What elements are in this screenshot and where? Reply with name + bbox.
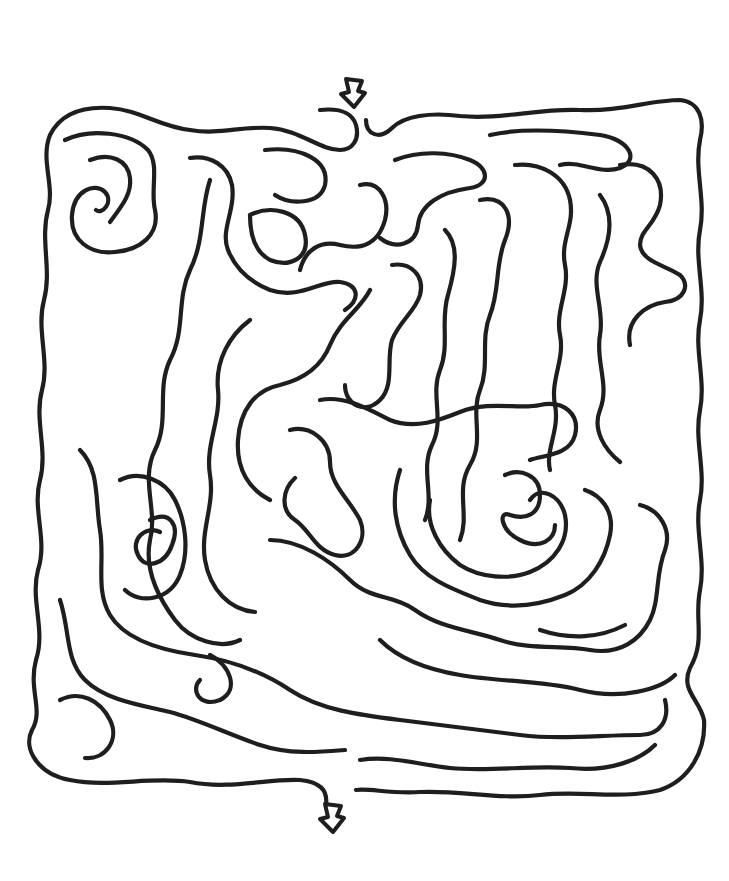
maze-wall [540,625,625,636]
maze-wall [270,505,667,651]
maze-wall [60,600,345,752]
maze-wall [265,149,326,201]
maze-wall [345,265,421,408]
maze-wall [460,199,509,540]
maze-wall [360,745,655,769]
maze-wall [490,130,630,169]
start-arrow-icon [341,79,365,107]
maze-wall [425,230,455,520]
maze-canvas [0,0,729,881]
maze-wall [620,164,685,345]
maze-wall [284,429,362,556]
maze-wall [503,472,555,544]
maze-wall [515,165,571,470]
maze-wall [356,100,704,796]
maze-wall [596,195,620,462]
maze-wall [380,640,675,694]
maze-wall [429,493,566,577]
end-arrow-icon [320,804,344,832]
maze-wall [238,290,370,500]
maze-wall [204,320,255,612]
maze-wall [136,517,175,564]
maze-wall [60,696,113,758]
maze-wall [250,210,306,263]
maze-wall [190,157,356,310]
maze-wall [380,153,485,244]
maze-walls [29,100,704,805]
maze-wall [65,133,156,252]
